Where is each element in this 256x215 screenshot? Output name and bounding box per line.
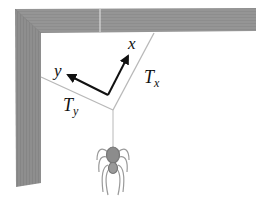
x-axis-arrow-icon: [108, 56, 128, 95]
tension-y-label: Ty: [63, 95, 78, 116]
frame-left-post: [15, 9, 41, 187]
y-axis-label: y: [54, 61, 62, 81]
tension-x-symbol: T: [144, 67, 154, 87]
tension-x-subscript: x: [154, 76, 159, 90]
tension-x-label: Tx: [144, 67, 159, 88]
frame-top-beam: [15, 8, 256, 33]
tension-y-symbol: T: [63, 95, 73, 115]
diagram-canvas: [0, 0, 256, 215]
tension-y-subscript: y: [73, 104, 78, 118]
spider-icon: [97, 147, 129, 195]
coordinate-axes: [68, 56, 128, 95]
x-axis-label: x: [128, 34, 136, 54]
